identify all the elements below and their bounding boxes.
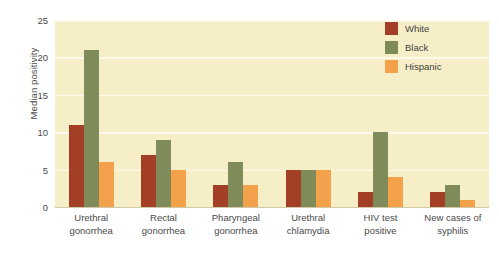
- bar: [213, 185, 228, 207]
- bar: [388, 177, 403, 207]
- x-axis-category-label: New cases ofsyphilis: [417, 212, 489, 237]
- y-axis-tick-label: 5: [43, 164, 48, 175]
- bar-group: [55, 20, 127, 207]
- bar-group: [272, 20, 344, 207]
- x-axis-category-label: Urethralchlamydia: [272, 212, 344, 237]
- legend-item: White: [385, 22, 441, 35]
- bar: [286, 170, 301, 207]
- x-axis-line: [55, 207, 489, 208]
- bar: [69, 125, 84, 207]
- bar: [171, 170, 186, 207]
- bar: [228, 162, 243, 207]
- x-axis-category-label: Urethralgonorrhea: [55, 212, 127, 237]
- legend-swatch: [385, 22, 398, 35]
- bar-chart: Median positivity 0510152025 Urethralgon…: [0, 0, 499, 261]
- y-axis-tick-label: 15: [37, 89, 48, 100]
- y-axis-tick-label: 10: [37, 127, 48, 138]
- legend-item: Black: [385, 41, 441, 54]
- y-axis-tick-labels: 0510152025: [22, 20, 48, 207]
- legend-label: Hispanic: [405, 61, 441, 72]
- y-axis-tick-label: 0: [43, 202, 48, 213]
- bar: [316, 170, 331, 207]
- bar: [156, 140, 171, 207]
- x-axis-category-label: Pharyngealgonorrhea: [200, 212, 272, 237]
- bar: [84, 50, 99, 207]
- bar-group: [127, 20, 199, 207]
- bar: [141, 155, 156, 207]
- bar: [460, 200, 475, 207]
- bar: [445, 185, 460, 207]
- legend-label: Black: [405, 42, 428, 53]
- y-axis-tick-label: 20: [37, 52, 48, 63]
- legend-swatch: [385, 60, 398, 73]
- bar: [99, 162, 114, 207]
- bar: [243, 185, 258, 207]
- x-axis-category-labels: UrethralgonorrheaRectalgonorrheaPharynge…: [55, 212, 489, 237]
- x-axis-category-label: Rectalgonorrhea: [127, 212, 199, 237]
- legend: WhiteBlackHispanic: [385, 22, 441, 73]
- bar: [430, 192, 445, 207]
- bar-group: [200, 20, 272, 207]
- legend-item: Hispanic: [385, 60, 441, 73]
- legend-swatch: [385, 41, 398, 54]
- legend-label: White: [405, 23, 429, 34]
- x-axis-category-label: HIV testpositive: [344, 212, 416, 237]
- bar: [358, 192, 373, 207]
- bar: [301, 170, 316, 207]
- y-axis-tick-label: 25: [37, 15, 48, 26]
- bar: [373, 132, 388, 207]
